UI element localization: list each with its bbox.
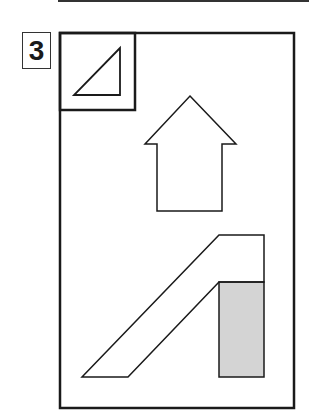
instruction-diagram [0, 0, 309, 419]
triangle-icon [74, 48, 120, 95]
up-arrow-icon [145, 96, 236, 211]
gray-block [219, 282, 264, 377]
